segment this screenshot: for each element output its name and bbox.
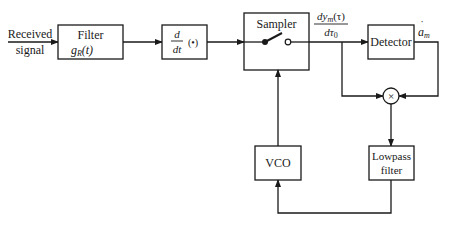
sampler-output-label: dym(τ) dτ0: [314, 10, 348, 40]
detector-title: Detector: [370, 35, 411, 49]
detector-output-label: am ˙: [418, 18, 430, 40]
input-label-signal: signal: [16, 43, 45, 57]
diff-argument: (•): [188, 37, 198, 49]
differentiator-block: d dt (•): [162, 25, 207, 59]
switch-contact-icon: [285, 39, 291, 45]
lowpass-filter-block: Lowpass filter: [369, 146, 414, 180]
lowpass-to-vco-arrow: [278, 180, 391, 213]
svg-text:˙: ˙: [420, 18, 424, 30]
svg-text:dτ0: dτ0: [324, 26, 337, 40]
lowpass-title-line1: Lowpass: [372, 150, 411, 162]
sampler-title: Sampler: [257, 17, 297, 31]
diff-numerator: d: [174, 28, 180, 40]
filter-title: Filter: [78, 28, 104, 42]
sampler-block: Sampler: [244, 13, 309, 70]
vco-title: VCO: [265, 156, 291, 170]
input-label-received: Received: [8, 27, 53, 41]
svg-text:dym(τ): dym(τ): [317, 10, 345, 24]
lowpass-title-line2: filter: [381, 164, 403, 176]
diff-denominator: dt: [173, 43, 183, 55]
timing-recovery-block-diagram: Received signal Filter gR(t) d dt (•) Sa…: [0, 0, 457, 226]
detector-block: Detector: [368, 25, 414, 59]
vco-block: VCO: [255, 146, 301, 180]
multiply-icon: ×: [388, 90, 394, 102]
filter-impulse-response: gR(t): [71, 43, 93, 58]
multiplier-node: ×: [383, 88, 399, 104]
filter-block: Filter gR(t): [58, 25, 123, 59]
